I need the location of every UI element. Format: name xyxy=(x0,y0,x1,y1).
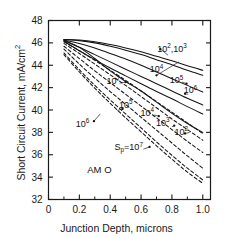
leader-endpoint xyxy=(124,81,126,83)
y-tick-label: 42 xyxy=(31,82,43,93)
annotation-dashed-104: 104 xyxy=(140,106,154,117)
annotation-solid-107: 107 xyxy=(107,75,121,86)
chart-figure: 32343638404244464800.20.40.60.81.0AM OSp… xyxy=(0,0,233,238)
y-tick-label: 46 xyxy=(31,37,43,48)
y-tick-label: 48 xyxy=(31,15,43,26)
annotation-solid-102-103: 102,103 xyxy=(157,42,187,53)
leader-endpoint xyxy=(93,120,95,122)
chart-canvas: 32343638404244464800.20.40.60.81.0AM OSp… xyxy=(0,0,233,238)
leader-endpoint xyxy=(155,74,157,76)
annotation-dashed-102: 102 xyxy=(174,125,188,136)
x-tick-label: 0.8 xyxy=(165,204,179,215)
data-curves xyxy=(64,40,203,184)
x-axis-ticks: 00.20.40.60.81.0 xyxy=(46,21,210,215)
y-tick-label: 38 xyxy=(31,127,43,138)
annotation-solid-106: 106 xyxy=(184,84,198,95)
y-axis-title-text: Short Circuit Current, mA/cm xyxy=(15,49,27,180)
y-tick-label: 36 xyxy=(31,149,43,160)
x-tick-label: 0 xyxy=(46,204,52,215)
y-tick-label: 44 xyxy=(31,60,43,71)
annotation-am0: AM O xyxy=(87,164,111,175)
x-axis-title: Junction Depth, microns xyxy=(0,222,233,234)
annotation-dashed-106: 106 xyxy=(76,117,90,128)
leader-endpoint xyxy=(148,146,150,148)
annotation-dashed-105: 105 xyxy=(119,98,133,109)
y-tick-label: 32 xyxy=(31,194,43,205)
x-tick-label: 1.0 xyxy=(196,204,210,215)
annotation-sp-label: Sp=107 xyxy=(115,141,144,155)
x-tick-label: 0.2 xyxy=(72,204,86,215)
y-axis-title-exponent: 2 xyxy=(13,45,22,49)
y-tick-label: 34 xyxy=(31,172,43,183)
y-tick-label: 40 xyxy=(31,105,43,116)
y-axis-title: Short Circuit Current, mA/cm2 xyxy=(13,25,27,201)
x-tick-label: 0.4 xyxy=(103,204,117,215)
x-tick-label: 0.6 xyxy=(134,204,148,215)
leader-line xyxy=(94,114,100,121)
curve-annotations: AM OSp=107102,10310410510610710510610410… xyxy=(76,42,198,174)
